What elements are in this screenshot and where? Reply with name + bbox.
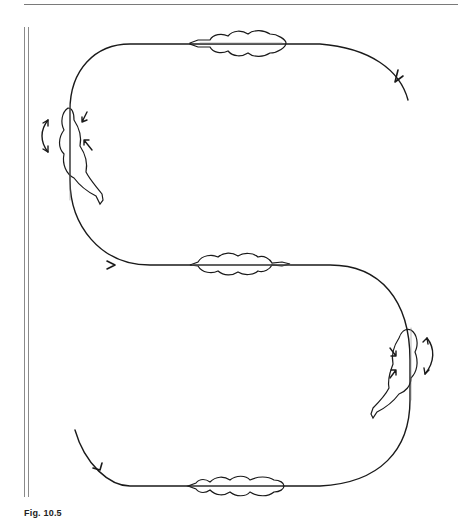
figure-label: Fig. 10.5 xyxy=(24,508,62,518)
horse-right-turn xyxy=(371,328,433,418)
horse-middle-straight xyxy=(190,253,290,275)
figure-caption: Fig. 10.5 xyxy=(24,508,62,518)
horse-left-turn xyxy=(42,104,103,204)
horse-bottom-straight xyxy=(188,476,284,496)
direction-arrow-icon xyxy=(107,261,115,269)
